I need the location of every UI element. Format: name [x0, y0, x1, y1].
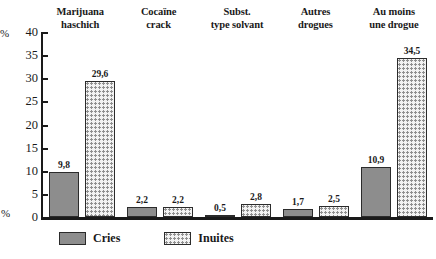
category-header-line: drogues	[276, 18, 354, 31]
bar-value-label: 2,8	[250, 192, 262, 203]
bar-inuites[interactable]	[397, 58, 427, 217]
bar-cries[interactable]	[205, 215, 235, 217]
y-axis-tick-label: 10	[0, 165, 38, 177]
legend-item-inuites: Inuites	[164, 232, 233, 245]
bar-value-label: 2,2	[136, 195, 148, 206]
legend-item-cries: Cries	[59, 232, 120, 245]
bar-item[interactable]: 9,8	[49, 160, 79, 217]
bar-cries[interactable]	[49, 172, 79, 217]
y-axis-tick-label: 5	[0, 188, 38, 200]
chart-legend: Cries Inuites	[41, 228, 433, 248]
x-axis-baseline	[41, 217, 433, 220]
bar-inuites[interactable]	[163, 207, 193, 217]
bar-item[interactable]: 2,2	[163, 195, 193, 217]
y-axis-tick-label: 30	[0, 72, 38, 84]
category-header-line: haschich	[41, 18, 119, 31]
bar-inuites[interactable]	[241, 204, 271, 217]
category-header-line: Autres	[276, 5, 354, 18]
bar-inuites[interactable]	[319, 206, 349, 218]
bar-item[interactable]: 2,5	[319, 194, 349, 218]
category-header-line: Subst.	[198, 5, 276, 18]
bar-item[interactable]: 34,5	[397, 46, 427, 217]
bar-value-label: 10,9	[368, 155, 385, 166]
category-header-line: crack	[119, 18, 197, 31]
bar-item[interactable]: 1,7	[283, 197, 313, 217]
bar-cries[interactable]	[127, 207, 157, 217]
bar-item[interactable]: 29,6	[85, 69, 115, 217]
category-header-line: Cocaïne	[119, 5, 197, 18]
bar-chart: Marijuana haschich Cocaïne crack Subst. …	[0, 0, 436, 259]
bar-item[interactable]: 2,2	[127, 195, 157, 217]
y-axis-tick-label: 15	[0, 142, 38, 154]
bar-value-label: 34,5	[404, 46, 421, 57]
category-header-line: Au moins	[355, 5, 433, 18]
legend-label: Inuites	[198, 232, 233, 245]
bar-value-label: 1,7	[292, 197, 304, 208]
bar-value-label: 2,2	[172, 195, 184, 206]
legend-label: Cries	[93, 232, 120, 245]
legend-swatch-icon	[164, 232, 191, 245]
y-axis-tick-label: 20	[0, 119, 38, 131]
bar-group: 0,52,8	[199, 33, 277, 217]
bar-cries[interactable]	[283, 209, 313, 217]
bar-inuites[interactable]	[85, 81, 115, 217]
bar-value-label: 29,6	[92, 69, 109, 80]
category-header-line: une drogue	[355, 18, 433, 31]
y-axis-tick-label: 40	[0, 26, 38, 38]
y-axis-tick-label: 0	[0, 211, 38, 223]
category-header-line: Marijuana	[41, 5, 119, 18]
y-axis-tick-label: 25	[0, 95, 38, 107]
bar-cries[interactable]	[361, 167, 391, 217]
bar-item[interactable]: 0,5	[205, 203, 235, 217]
bar-group: 2,22,2	[121, 33, 199, 217]
y-axis-tick-label: 35	[0, 49, 38, 61]
bar-value-label: 9,8	[58, 160, 70, 171]
legend-swatch-icon	[59, 232, 86, 245]
bar-group: 1,72,5	[277, 33, 355, 217]
category-header-line: type solvant	[198, 18, 276, 31]
bar-group: 10,934,5	[355, 33, 433, 217]
bar-value-label: 0,5	[214, 203, 226, 214]
bar-group: 9,829,6	[43, 33, 121, 217]
bar-value-label: 2,5	[328, 194, 340, 205]
bar-item[interactable]: 2,8	[241, 192, 271, 217]
bar-item[interactable]: 10,9	[361, 155, 391, 217]
plot-area: 9,829,62,22,20,52,81,72,510,934,5	[43, 33, 433, 217]
